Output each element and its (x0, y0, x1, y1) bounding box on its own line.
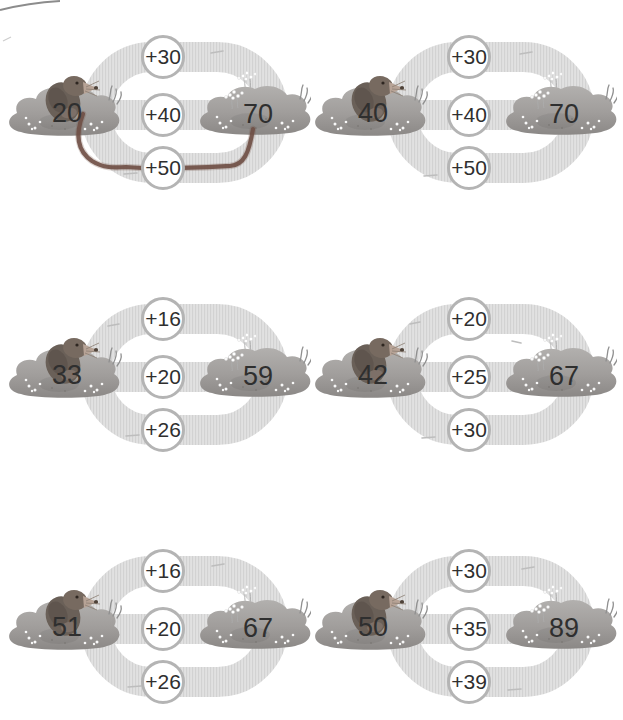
start-number: 50 (358, 612, 388, 643)
operation-circle[interactable]: +26 (141, 660, 185, 704)
start-number: 42 (358, 360, 388, 391)
track-mark (128, 686, 141, 687)
operation-circle[interactable]: +30 (447, 35, 491, 79)
operation-label: +20 (145, 617, 181, 641)
operation-label: +30 (451, 45, 487, 69)
track-mark (422, 437, 435, 438)
track-mark (508, 689, 521, 690)
operation-label: +30 (451, 418, 487, 442)
operation-circle[interactable]: +25 (447, 355, 491, 399)
operation-circle[interactable]: +39 (447, 660, 491, 704)
operation-label: +25 (451, 365, 487, 389)
operation-circle[interactable]: +16 (141, 297, 185, 341)
operation-label: +50 (145, 156, 181, 180)
operation-circle[interactable]: +26 (141, 408, 185, 452)
operation-circle[interactable]: +50 (141, 146, 185, 190)
puzzle: +30 +35 +39 50 89 (312, 538, 617, 720)
end-number: 70 (243, 99, 273, 130)
page-corner-arc (0, 0, 70, 16)
operation-circle[interactable]: +20 (447, 297, 491, 341)
end-number: 67 (549, 361, 579, 392)
operation-label: +26 (145, 670, 181, 694)
operation-label: +40 (145, 103, 181, 127)
operation-circle[interactable]: +40 (447, 93, 491, 137)
end-number: 70 (549, 99, 579, 130)
operation-circle[interactable]: +30 (141, 35, 185, 79)
operation-circle[interactable]: +30 (447, 408, 491, 452)
operation-label: +16 (145, 307, 181, 331)
operation-label: +30 (145, 45, 181, 69)
operation-label: +20 (451, 307, 487, 331)
operation-circle[interactable]: +20 (141, 607, 185, 651)
operation-circle[interactable]: +40 (141, 93, 185, 137)
track-mark (124, 173, 137, 174)
operation-label: +16 (145, 559, 181, 583)
operation-circle[interactable]: +50 (447, 146, 491, 190)
track-mark (126, 435, 139, 436)
start-number: 20 (52, 98, 82, 129)
operation-circle[interactable]: +30 (447, 549, 491, 593)
puzzle: +16 +20 +26 51 67 (6, 538, 311, 720)
end-number: 67 (243, 613, 273, 644)
puzzle: +30 +40 +50 40 70 (312, 24, 617, 214)
track-mark (424, 175, 437, 176)
end-number: 89 (549, 613, 579, 644)
start-number: 51 (52, 612, 82, 643)
puzzle: +16 +20 +26 33 59 (6, 286, 311, 476)
operation-label: +20 (145, 365, 181, 389)
operation-circle[interactable]: +35 (447, 607, 491, 651)
operation-label: +35 (451, 617, 487, 641)
start-number: 40 (358, 98, 388, 129)
operation-label: +30 (451, 559, 487, 583)
start-number: 33 (52, 360, 82, 391)
operation-label: +39 (451, 670, 487, 694)
operation-label: +26 (145, 418, 181, 442)
operation-circle[interactable]: +16 (141, 549, 185, 593)
operation-label: +50 (451, 156, 487, 180)
track-mark (512, 341, 521, 343)
operation-circle[interactable]: +20 (141, 355, 185, 399)
operation-label: +40 (451, 103, 487, 127)
puzzle: +30 +40 +50 20 70 (6, 24, 311, 214)
puzzle: +20 +25 +30 42 67 (312, 286, 617, 476)
end-number: 59 (243, 361, 273, 392)
